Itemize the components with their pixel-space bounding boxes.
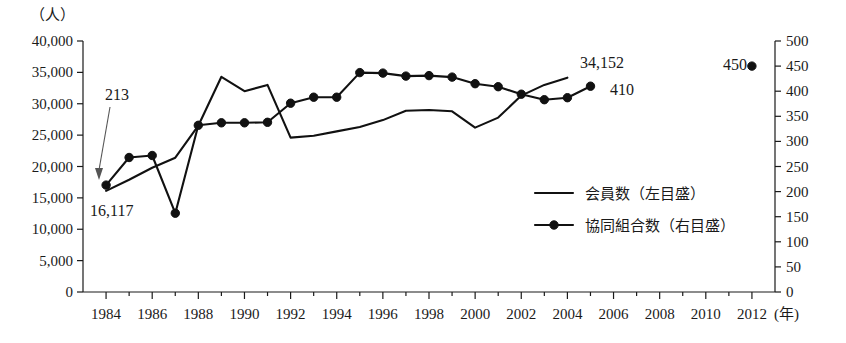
series-data-point	[748, 62, 756, 70]
series-data-point	[448, 73, 456, 81]
x-tick-label: 2002	[506, 306, 536, 322]
coop-2012-value: 450	[723, 56, 747, 73]
series-data-point	[148, 151, 156, 159]
legend-marker-dot-1	[550, 221, 558, 229]
left-tick-label: 20,000	[32, 159, 73, 175]
x-tick-label: 1996	[368, 306, 399, 322]
x-tick-label: 2000	[460, 306, 490, 322]
right-tick-label: 500	[786, 33, 809, 49]
series-data-point	[194, 121, 202, 129]
left-tick-label: 0	[66, 284, 74, 300]
x-tick-label: 1990	[229, 306, 259, 322]
series-data-point	[125, 153, 133, 161]
series-data-point	[471, 80, 479, 88]
series-data-point	[263, 118, 271, 126]
right-tick-label: 0	[786, 284, 794, 300]
left-axis-ticks: 40,00035,00030,00025,00020,00015,00010,0…	[32, 33, 83, 300]
series-data-point	[333, 93, 341, 101]
x-axis-unit-label: (年)	[774, 306, 799, 323]
x-tick-label: 2012	[737, 306, 767, 322]
series-data-point	[517, 90, 525, 98]
x-tick-label: 2008	[645, 306, 675, 322]
left-tick-label: 10,000	[32, 221, 73, 237]
series-data-point	[217, 119, 225, 127]
x-tick-label: 1992	[276, 306, 306, 322]
coop-end-value: 410	[610, 81, 634, 98]
right-tick-label: 350	[786, 108, 809, 124]
series-data-point	[286, 99, 294, 107]
x-axis-ticks: 1984198619881990199219941996199820002002…	[91, 292, 799, 323]
series-data-point	[171, 209, 179, 217]
legend-label-0: 会員数（左目盛）	[585, 186, 705, 202]
member-start-value: 16,117	[90, 202, 133, 219]
chart-legend: 会員数（左目盛）協同組合数（右目盛）	[535, 186, 735, 234]
left-tick-label: 35,000	[32, 64, 73, 80]
series-data-point	[494, 83, 502, 91]
series-data-point	[563, 94, 571, 102]
series-data-point	[379, 69, 387, 77]
x-tick-label: 2006	[599, 306, 630, 322]
coop-start-arrow-line	[99, 107, 110, 170]
right-tick-label: 200	[786, 184, 809, 200]
x-tick-label: 1984	[91, 306, 122, 322]
x-tick-label: 1986	[137, 306, 168, 322]
series-data-point	[310, 93, 318, 101]
right-tick-label: 250	[786, 159, 809, 175]
x-tick-label: 2010	[691, 306, 721, 322]
right-tick-label: 400	[786, 83, 809, 99]
left-tick-label: 15,000	[32, 190, 73, 206]
left-axis-unit-label: （人）	[30, 7, 75, 23]
series-data-point	[425, 71, 433, 79]
series-data-point	[240, 119, 248, 127]
x-tick-label: 1988	[183, 306, 213, 322]
left-tick-label: 30,000	[32, 96, 73, 112]
right-tick-label: 300	[786, 133, 809, 149]
series-data-point	[540, 96, 548, 104]
right-tick-label: 100	[786, 234, 809, 250]
series-data-point	[402, 72, 410, 80]
x-tick-label: 2004	[552, 306, 583, 322]
left-axis-unit-group: （人）	[30, 7, 75, 23]
left-tick-label: 5,000	[39, 253, 73, 269]
right-tick-label: 50	[786, 259, 801, 275]
legend-label-1: 協同組合数（右目盛）	[585, 218, 735, 234]
series-data-point	[586, 82, 594, 90]
coop-start-arrow-head	[95, 168, 103, 180]
right-axis-ticks: 500450400350300250200150100500	[775, 33, 809, 300]
right-tick-label: 450	[786, 58, 809, 74]
x-tick-label: 1998	[414, 306, 444, 322]
right-tick-label: 150	[786, 209, 809, 225]
left-tick-label: 40,000	[32, 33, 73, 49]
series-data-point	[102, 181, 110, 189]
coop-start-value: 213	[105, 86, 129, 103]
chart-container: （人） 40,00035,00030,00025,00020,00015,000…	[0, 0, 846, 343]
series-data-point	[356, 68, 364, 76]
member-cooperative-line-chart: （人） 40,00035,00030,00025,00020,00015,000…	[0, 0, 846, 343]
member-end-value: 34,152	[580, 54, 624, 71]
left-tick-label: 25,000	[32, 127, 73, 143]
x-tick-label: 1994	[322, 306, 353, 322]
